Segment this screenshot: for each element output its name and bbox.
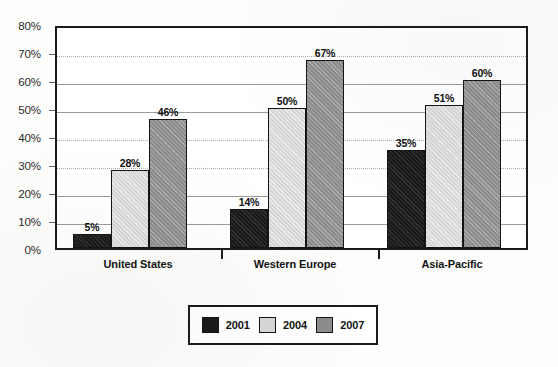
plot-inner: 5% 28% 46% 14% 50% 67% 35% (57, 28, 526, 248)
gridline-60 (57, 84, 526, 85)
y-tick-label: 10% (18, 216, 41, 228)
category-label-united-states: United States (104, 258, 173, 270)
bar-2001-western-europe: 14% (230, 209, 268, 248)
y-axis: 80% 70% 60% 50% 40% 30% 20% 10% 0% (0, 26, 48, 250)
gridline-70 (57, 56, 526, 57)
bar-2007-united-states: 46% (149, 119, 187, 248)
legend-swatch-2001 (202, 317, 219, 333)
bar-value-label: 51% (434, 92, 454, 104)
legend-item-2001: 2001 (202, 317, 250, 333)
bar-value-label: 28% (120, 157, 140, 169)
bar-value-label: 14% (239, 196, 259, 208)
legend-item-2004: 2004 (259, 317, 307, 333)
category-label-asia-pacific: Asia-Pacific (421, 258, 482, 270)
bar-value-label: 50% (277, 95, 297, 107)
y-tick-label: 50% (18, 104, 41, 116)
legend-inner: 2001 2004 2007 (192, 309, 374, 341)
legend-label-2007: 2007 (340, 319, 364, 331)
category-label-western-europe: Western Europe (254, 258, 337, 270)
legend-swatch-2007 (316, 317, 333, 333)
bar-2001-asia-pacific: 35% (387, 150, 425, 248)
y-tick-label: 70% (18, 48, 41, 60)
bar-value-label: 5% (85, 221, 100, 233)
y-tick-label: 40% (18, 132, 41, 144)
legend-item-2007: 2007 (316, 317, 364, 333)
group-separator-tick (221, 250, 223, 259)
y-tick-label: 60% (18, 76, 41, 88)
bar-2001-united-states: 5% (73, 234, 111, 248)
bar-2004-united-states: 28% (111, 170, 149, 248)
y-tick-label: 30% (18, 160, 41, 172)
bar-2007-asia-pacific: 60% (463, 80, 501, 248)
group-separator-tick (378, 250, 380, 259)
bar-2004-western-europe: 50% (268, 108, 306, 248)
bar-value-label: 67% (315, 47, 335, 59)
bar-value-label: 46% (158, 106, 178, 118)
bar-2007-western-europe: 67% (306, 60, 344, 248)
chart-legend: 2001 2004 2007 (188, 305, 378, 345)
bar-chart-figure: 80% 70% 60% 50% 40% 30% 20% 10% 0% (0, 0, 558, 367)
legend-label-2004: 2004 (283, 319, 307, 331)
legend-label-2001: 2001 (226, 319, 250, 331)
bar-2004-asia-pacific: 51% (425, 105, 463, 248)
bar-value-label: 35% (396, 137, 416, 149)
y-tick-label: 20% (18, 188, 41, 200)
legend-swatch-2004 (259, 317, 276, 333)
y-tick-label: 0% (25, 244, 41, 256)
y-tick-label: 80% (18, 20, 41, 32)
bar-value-label: 60% (472, 67, 492, 79)
plot-area: 5% 28% 46% 14% 50% 67% 35% (55, 26, 528, 250)
